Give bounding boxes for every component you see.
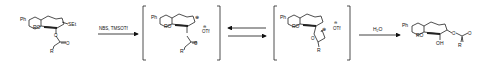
oxocarbenium-structure — [160, 14, 197, 50]
reagent-label-3: H₂O — [373, 26, 383, 32]
carbonyl-o-label: O — [468, 31, 472, 36]
ph-label: Ph — [20, 16, 26, 22]
r-label: R — [458, 42, 462, 48]
carbonyl-o-label: O — [194, 41, 198, 46]
anion-charge: ⊖ — [334, 20, 337, 25]
otf-label: OTf — [202, 29, 210, 34]
ph-label: Ph — [280, 14, 286, 20]
otf-label: OTf — [333, 26, 341, 31]
cation-charge: ⊕ — [322, 26, 326, 32]
r-label: R — [317, 47, 321, 53]
starting-material-structure — [29, 16, 68, 49]
ester-o-label: O — [452, 31, 456, 36]
oh-label: OH — [436, 40, 444, 46]
set-label: SEt — [68, 21, 77, 27]
carbonyl-o-label: O — [66, 41, 70, 46]
ro-label: RO — [292, 23, 300, 29]
ring-o-label: O — [311, 36, 315, 41]
ro-label: RO — [416, 32, 424, 38]
ro-label: RO — [164, 23, 172, 29]
cation-charge: ⊕ — [195, 14, 199, 20]
reagent-label-1: NBS, TMSOTf — [99, 26, 128, 31]
ph-label: Ph — [402, 22, 408, 28]
ph-label: Ph — [151, 14, 157, 20]
ro-label: RO — [33, 24, 41, 30]
r-label: R — [50, 48, 54, 54]
dioxolenium-structure — [288, 14, 325, 47]
equilibrium-arrows — [228, 28, 266, 36]
reaction-scheme: Ph RO SEt O O R NBS, TMSOTf Ph RO ⊕ ⊖ OT… — [0, 0, 493, 65]
ester-o-label: O — [54, 33, 58, 38]
r-label: R — [180, 48, 184, 54]
